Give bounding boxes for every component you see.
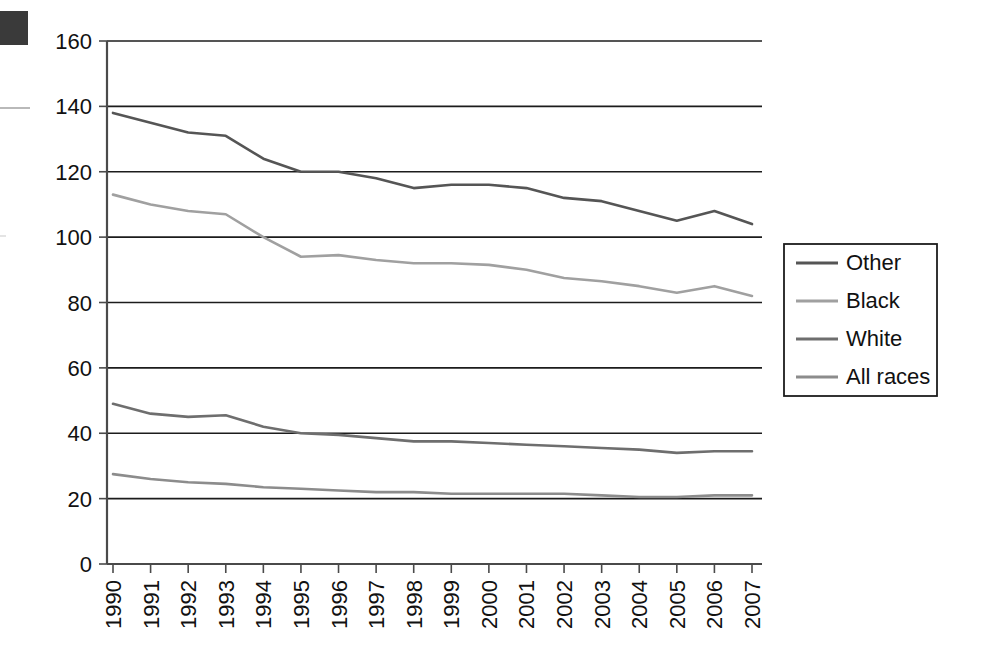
series-line-other <box>113 113 752 224</box>
y-tick-label: 80 <box>68 291 92 316</box>
data-series-group <box>113 113 752 497</box>
chart-legend[interactable]: OtherBlackWhiteAll races <box>784 244 937 396</box>
y-tick-label: 140 <box>55 94 92 119</box>
y-tick-label: 40 <box>68 421 92 446</box>
series-line-white <box>113 404 752 453</box>
x-tick-marks-group <box>113 564 752 573</box>
x-tick-label-1996: 1996 <box>327 580 352 629</box>
legend-label-white[interactable]: White <box>846 326 902 351</box>
y-tick-marks-group <box>99 41 107 564</box>
x-tick-label-1997: 1997 <box>364 580 389 629</box>
line-chart: 020406080100120140160 199019911992199319… <box>0 0 984 656</box>
x-tick-label-1992: 1992 <box>176 580 201 629</box>
x-tick-label-1991: 1991 <box>139 580 164 629</box>
x-tick-label-1994: 1994 <box>251 580 276 629</box>
scan-artifact-square <box>0 11 28 45</box>
gridlines-group <box>107 41 762 564</box>
y-tick-label: 120 <box>55 160 92 185</box>
x-tick-labels-group: 1990199119921993199419951996199719981999… <box>101 580 765 629</box>
x-tick-label-2007: 2007 <box>740 580 765 629</box>
x-tick-label-2002: 2002 <box>552 580 577 629</box>
y-tick-label: 20 <box>68 487 92 512</box>
legend-label-black[interactable]: Black <box>846 288 901 313</box>
y-tick-label: 100 <box>55 225 92 250</box>
x-tick-label-1998: 1998 <box>402 580 427 629</box>
x-tick-label-2000: 2000 <box>477 580 502 629</box>
series-line-all-races <box>113 474 752 497</box>
chart-container: 020406080100120140160 199019911992199319… <box>0 0 984 656</box>
y-tick-label: 0 <box>80 552 92 577</box>
x-tick-label-2001: 2001 <box>514 580 539 629</box>
x-tick-label-2004: 2004 <box>627 580 652 629</box>
x-tick-label-2006: 2006 <box>702 580 727 629</box>
y-tick-label: 160 <box>55 29 92 54</box>
legend-label-other[interactable]: Other <box>846 250 901 275</box>
x-tick-label-2003: 2003 <box>590 580 615 629</box>
y-tick-labels-group: 020406080100120140160 <box>55 29 92 577</box>
x-tick-label-1999: 1999 <box>439 580 464 629</box>
x-tick-label-1990: 1990 <box>101 580 126 629</box>
legend-label-all-races[interactable]: All races <box>846 364 930 389</box>
x-tick-label-2005: 2005 <box>665 580 690 629</box>
y-tick-label: 60 <box>68 356 92 381</box>
x-tick-label-1993: 1993 <box>214 580 239 629</box>
x-tick-label-1995: 1995 <box>289 580 314 629</box>
series-line-black <box>113 195 752 296</box>
